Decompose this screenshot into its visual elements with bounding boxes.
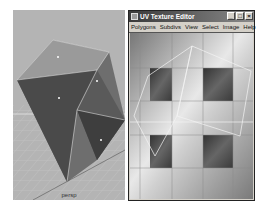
- menu-help[interactable]: Help: [243, 22, 255, 32]
- menu-polygons[interactable]: Polygons: [131, 22, 156, 32]
- title-bar[interactable]: UV Texture Editor _ □ ×: [129, 11, 254, 22]
- checker-texture: [130, 33, 253, 199]
- menu-subdivs[interactable]: Subdivs: [160, 22, 181, 32]
- menu-image[interactable]: Image: [223, 22, 240, 32]
- viewport-scene: [13, 10, 125, 200]
- uv-texture-editor-window[interactable]: UV Texture Editor _ □ × Polygons Subdivs…: [128, 10, 255, 201]
- camera-label: persp: [13, 192, 125, 198]
- close-button[interactable]: ×: [245, 12, 253, 20]
- maximize-button[interactable]: □: [236, 12, 244, 20]
- menu-bar: Polygons Subdivs View Select Image Help: [129, 22, 254, 33]
- menu-view[interactable]: View: [185, 22, 198, 32]
- menu-select[interactable]: Select: [202, 22, 219, 32]
- perspective-viewport[interactable]: persp: [13, 10, 125, 200]
- uv-canvas[interactable]: [130, 33, 253, 199]
- minimize-button[interactable]: _: [227, 12, 235, 20]
- window-title: UV Texture Editor: [140, 13, 194, 20]
- window-icon: [131, 13, 138, 20]
